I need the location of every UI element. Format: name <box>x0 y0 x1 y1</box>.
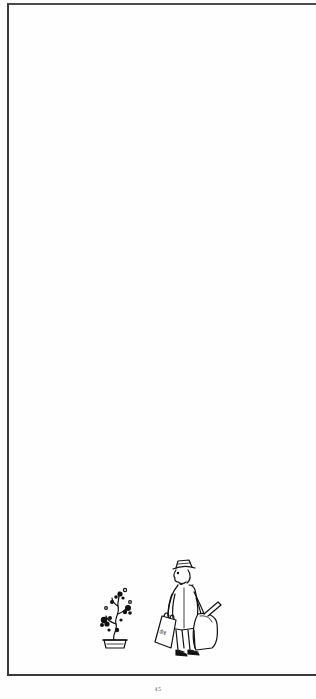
traveler-figure-icon: ऊँड़ <box>155 560 221 656</box>
document-page: ऊँड़ 45 <box>0 0 316 699</box>
illustration: ऊँड़ <box>92 558 242 670</box>
bonsai-tree-icon <box>100 588 132 648</box>
page-number: 45 <box>150 686 166 692</box>
